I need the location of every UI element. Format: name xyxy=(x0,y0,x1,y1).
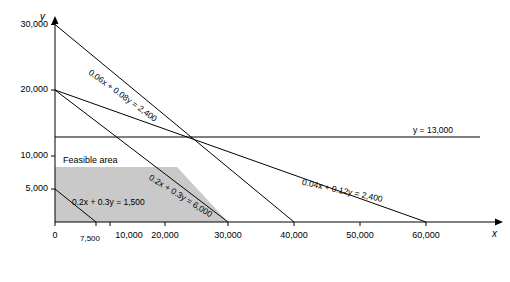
feasible-area-label: Feasible area xyxy=(63,156,118,165)
equation-label-y-13000: y = 13,000 xyxy=(413,126,453,135)
x-tick-label-7500: 7,500 xyxy=(72,235,108,243)
x-tick-label-40000: 40,000 xyxy=(272,231,316,240)
x-axis-arrow xyxy=(495,219,503,226)
equation-label-02x-03y-1500: 0.2x + 0.3y = 1,500 xyxy=(72,198,145,207)
x-tick-label-60000: 60,000 xyxy=(404,231,448,240)
x-tick-label-0: 0 xyxy=(43,231,67,240)
y-tick-label-10000: 10,000 xyxy=(8,151,48,160)
y-tick-label-20000: 20,000 xyxy=(8,85,48,94)
x-tick-label-50000: 50,000 xyxy=(338,231,382,240)
y-tick-label-5000: 5,000 xyxy=(11,184,48,193)
y-axis-label: y xyxy=(40,12,45,22)
x-axis-label: x xyxy=(492,229,497,239)
x-tick-label-20000: 20,000 xyxy=(143,231,187,240)
y-axis-arrow xyxy=(52,16,59,24)
chart-container: 30,000 20,000 10,000 5,000 0 7,500 10,00… xyxy=(0,0,510,282)
x-tick-label-30000: 30,000 xyxy=(206,231,250,240)
